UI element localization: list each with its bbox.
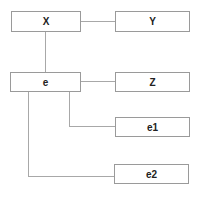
node-x: X [11, 11, 81, 32]
edge-e-z [81, 81, 115, 82]
edge-e-e2-horizontal [28, 176, 114, 177]
node-y: Y [115, 11, 190, 32]
node-e1: e1 [115, 117, 190, 137]
edge-x-y [81, 21, 115, 22]
node-z: Z [115, 72, 190, 92]
edge-e-e1-vertical [69, 92, 70, 127]
node-e2: e2 [114, 164, 189, 184]
edge-e-e2-vertical [28, 92, 29, 177]
edge-e-e1-horizontal [69, 126, 115, 127]
node-e: e [10, 72, 81, 92]
edge-x-e [45, 32, 46, 72]
